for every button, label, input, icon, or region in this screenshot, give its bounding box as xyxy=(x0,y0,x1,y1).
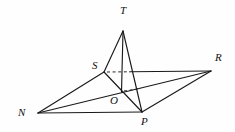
vertex-label-O: O xyxy=(110,95,118,106)
edge-T-S xyxy=(104,31,123,72)
vertex-label-P: P xyxy=(141,116,148,127)
edge-S-P xyxy=(104,72,142,112)
edge-N-S xyxy=(38,72,104,113)
edge-P-R xyxy=(142,71,211,112)
edge-N-P xyxy=(38,112,142,113)
vertex-label-N: N xyxy=(18,107,25,118)
geometry-figure: T S R O N P xyxy=(0,0,235,132)
figure-canvas xyxy=(0,0,235,132)
vertex-label-S: S xyxy=(92,60,98,71)
vertex-label-T: T xyxy=(120,5,126,16)
edge-T-O xyxy=(122,31,124,92)
edge-N-R-through-O xyxy=(38,71,211,113)
edge-S-R-solid-part xyxy=(130,71,211,72)
vertex-label-R: R xyxy=(215,52,222,63)
